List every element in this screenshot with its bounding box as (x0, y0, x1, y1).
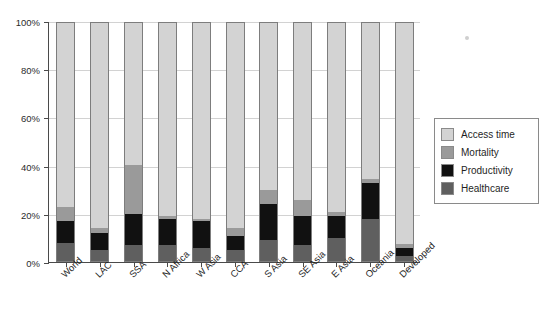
y-axis-tick-label: 0% (26, 258, 40, 269)
y-axis-tick-label: 60% (21, 113, 40, 124)
legend-swatch-access-time (441, 128, 454, 141)
bar-column (259, 22, 278, 262)
legend-item-access-time: Access time (441, 128, 532, 141)
bar-column (192, 22, 211, 262)
bar-column (90, 22, 109, 262)
legend-label-healthcare: Healthcare (461, 183, 509, 194)
bars-layer (49, 22, 420, 262)
bar-column (293, 22, 312, 262)
bar-segment-access (259, 22, 278, 190)
bar-segment-productivity (158, 219, 177, 245)
bar-segment-access (56, 22, 75, 207)
bar-segment-access (192, 22, 211, 219)
scan-artifact (465, 36, 469, 40)
bar-segment-access (361, 22, 380, 179)
legend-label-mortality: Mortality (461, 147, 499, 158)
legend-swatch-productivity (441, 164, 454, 177)
bar-segment-productivity (226, 236, 245, 250)
chart-legend: Access time Mortality Productivity Healt… (434, 118, 539, 204)
legend-item-healthcare: Healthcare (441, 182, 532, 195)
y-axis-tick-label: 20% (21, 209, 40, 220)
bar-segment-access (226, 22, 245, 228)
bar-segment-productivity (192, 221, 211, 247)
y-axis-tick (44, 263, 49, 264)
legend-swatch-healthcare (441, 182, 454, 195)
bar-segment-mortality (293, 200, 312, 217)
bar-column (226, 22, 245, 262)
y-axis-tick-label: 40% (21, 161, 40, 172)
legend-swatch-mortality (441, 146, 454, 159)
bar-segment-productivity (361, 183, 380, 219)
bar-segment-mortality (226, 228, 245, 235)
legend-label-access-time: Access time (461, 129, 515, 140)
legend-item-mortality: Mortality (441, 146, 532, 159)
bar-segment-mortality (56, 207, 75, 221)
bar-segment-productivity (327, 216, 346, 238)
bar-column (361, 22, 380, 262)
bar-column (395, 22, 414, 262)
bar-segment-access (293, 22, 312, 200)
bar-column (327, 22, 346, 262)
bar-segment-productivity (56, 221, 75, 243)
bar-segment-access (90, 22, 109, 228)
bar-segment-mortality (259, 190, 278, 204)
bar-segment-access (124, 22, 143, 165)
bar-column (56, 22, 75, 262)
bar-segment-access (395, 22, 414, 244)
y-axis-tick-label: 100% (16, 17, 40, 28)
y-axis-tick-label: 80% (21, 65, 40, 76)
legend-label-productivity: Productivity (461, 165, 513, 176)
bar-segment-productivity (90, 233, 109, 250)
bar-column (124, 22, 143, 262)
stacked-bar-chart: 0%20%40%60%80%100% WorldLACSSAN AfricaW … (0, 0, 547, 332)
legend-item-productivity: Productivity (441, 164, 532, 177)
bar-segment-access (327, 22, 346, 212)
bar-segment-productivity (395, 248, 414, 256)
bar-segment-mortality (124, 165, 143, 214)
bar-segment-productivity (259, 204, 278, 240)
bar-segment-productivity (124, 214, 143, 245)
bar-column (158, 22, 177, 262)
bar-segment-productivity (293, 216, 312, 245)
bar-segment-access (158, 22, 177, 216)
bar-segment-healthcare (361, 219, 380, 262)
plot-area: 0%20%40%60%80%100% (48, 22, 420, 263)
